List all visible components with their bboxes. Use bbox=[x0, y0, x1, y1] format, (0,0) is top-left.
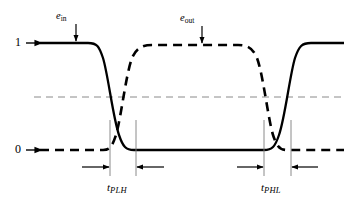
level-label-low: 0 bbox=[15, 143, 21, 155]
timing-diagram: 1 0 ein eout tPLH tPHL bbox=[0, 0, 350, 211]
signal-label-e-in: ein bbox=[56, 11, 67, 22]
measurement-label-tphl-sub: PHL bbox=[264, 185, 281, 195]
signal-label-e-out: eout bbox=[180, 13, 195, 24]
measurement-label-tplh: tPLH bbox=[107, 182, 127, 195]
level-label-high: 1 bbox=[15, 36, 21, 48]
waveform-canvas bbox=[0, 0, 350, 211]
measurement-label-tphl: tPHL bbox=[261, 182, 281, 195]
signal-label-e-out-sub: out bbox=[185, 16, 195, 25]
signal-label-e-in-sub: in bbox=[61, 14, 67, 23]
measurement-label-tplh-sub: PLH bbox=[110, 185, 127, 195]
